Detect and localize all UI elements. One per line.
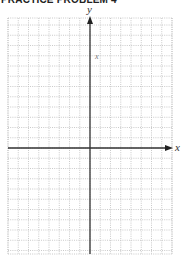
coordinate-grid: y x x xyxy=(0,0,188,265)
y-axis-label: y xyxy=(86,3,92,15)
x-axis-label: x xyxy=(174,141,180,153)
y-axis-arrow-icon xyxy=(87,16,93,24)
y-axis xyxy=(87,16,93,254)
grid-annotation: x xyxy=(94,52,99,61)
